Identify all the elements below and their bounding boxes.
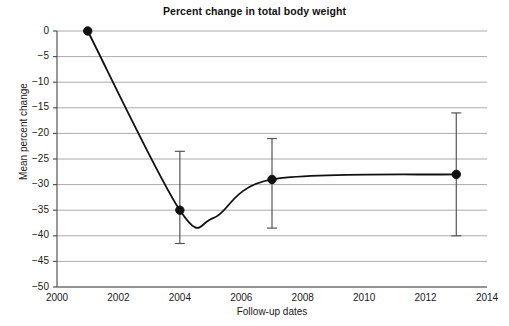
error-bars [175,113,461,244]
data-point-marker [452,170,460,178]
chart-figure: Percent change in total body weight Mean… [0,0,509,326]
data-point-marker [176,206,184,214]
data-point-marker [268,175,276,183]
plot-area [0,0,509,326]
data-point-marker [84,27,92,35]
